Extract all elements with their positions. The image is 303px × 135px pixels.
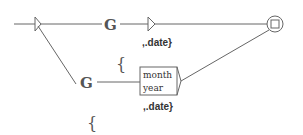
month-year-box[interactable]: month year <box>140 67 181 95</box>
initial-arrow-icon <box>14 17 41 31</box>
brace-bottom[interactable]: { <box>87 114 97 133</box>
box-line-month: month <box>143 70 172 80</box>
edge-initial-to-bottom-G <box>38 26 76 84</box>
bottom-G-node[interactable]: G <box>80 74 93 92</box>
box-line-year: year <box>142 83 164 93</box>
edge-box-to-final <box>181 30 269 81</box>
top-G-node[interactable]: G <box>104 16 117 34</box>
brace-top[interactable]: { <box>116 55 126 74</box>
final-state-icon[interactable] <box>267 16 283 32</box>
bottom-output-label: ,.date} <box>143 101 173 112</box>
top-output-label: ,.date} <box>142 37 172 48</box>
fst-graph: G ,.date} { G month year ,.date} { <box>0 0 303 135</box>
top-output-arrow-icon <box>148 17 155 31</box>
